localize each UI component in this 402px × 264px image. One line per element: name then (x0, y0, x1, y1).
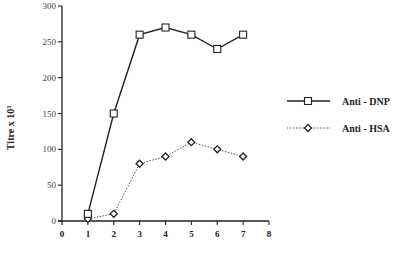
square-marker-icon (214, 46, 221, 53)
y-tick-label: 250 (43, 37, 57, 47)
legend-label-anti-hsa: Anti - HSA (342, 123, 391, 134)
legend-label-anti-dnp: Anti - DNP (342, 96, 390, 107)
diamond-marker-icon (214, 146, 221, 153)
x-tick-label: 1 (86, 229, 91, 239)
square-marker-icon (240, 31, 247, 38)
x-tick-label: 0 (60, 229, 65, 239)
series-layer (84, 24, 246, 222)
legend-item-anti-hsa: Anti - HSA (287, 123, 391, 134)
series-line (88, 28, 243, 214)
x-tick-label: 5 (189, 229, 194, 239)
x-tick-label: 6 (215, 229, 220, 239)
line-chart: Titre x 10³ 050100150200250300012345678 … (0, 0, 402, 264)
diamond-marker-icon (162, 153, 169, 160)
y-tick-label: 200 (43, 73, 57, 83)
y-axis-title-group: Titre x 10³ (5, 106, 16, 150)
square-marker-icon (162, 24, 169, 31)
y-tick-label: 0 (52, 216, 57, 226)
diamond-marker-icon (305, 125, 312, 132)
legend: Anti - DNP Anti - HSA (287, 96, 391, 134)
series-anti-hsa (84, 139, 246, 223)
square-marker-icon (84, 210, 91, 217)
x-tick-label: 4 (163, 229, 168, 239)
x-tick-label: 3 (137, 229, 142, 239)
series-anti-dnp (84, 24, 246, 217)
x-tick-label: 8 (267, 229, 272, 239)
x-tick-label: 2 (112, 229, 117, 239)
diamond-marker-icon (136, 160, 143, 167)
y-axis-title: Titre x 10³ (5, 106, 16, 150)
square-marker-icon (305, 98, 312, 105)
diamond-marker-icon (240, 153, 247, 160)
square-marker-icon (136, 31, 143, 38)
y-tick-label: 150 (43, 109, 57, 119)
y-tick-label: 300 (43, 1, 57, 11)
legend-item-anti-dnp: Anti - DNP (287, 96, 390, 107)
diamond-marker-icon (188, 139, 195, 146)
y-tick-label: 100 (43, 144, 57, 154)
x-tick-label: 7 (241, 229, 246, 239)
square-marker-icon (110, 110, 117, 117)
y-tick-label: 50 (47, 180, 57, 190)
diamond-marker-icon (110, 210, 117, 217)
square-marker-icon (188, 31, 195, 38)
axes: 050100150200250300012345678 (43, 1, 272, 239)
